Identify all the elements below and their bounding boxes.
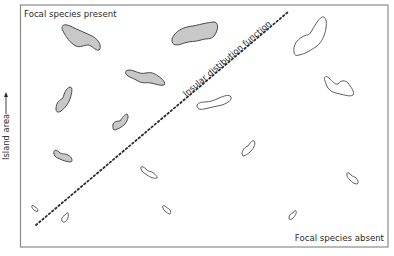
insular-distribution-diagram: Focal species present Focal species abse… xyxy=(0,0,394,256)
label-focal-species-present: Focal species present xyxy=(24,9,117,19)
y-axis-label: Island area xyxy=(1,114,11,160)
y-axis-arrow-head-icon xyxy=(4,92,8,97)
label-focal-species-absent: Focal species absent xyxy=(295,233,385,243)
y-axis-label-group: Island area xyxy=(1,92,11,160)
